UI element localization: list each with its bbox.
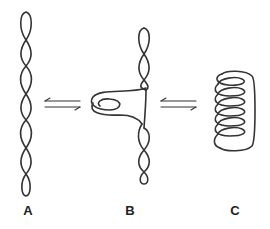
panel-label-a: A: [18, 203, 38, 218]
panel-label-b: B: [120, 203, 140, 218]
panel-label-c: C: [225, 203, 245, 218]
supercoil-diagram: A B C: [0, 0, 270, 229]
panel-b-intermediate: [92, 28, 150, 184]
panel-c-toroid: [214, 71, 255, 151]
diagram-canvas: [0, 0, 270, 229]
equilibrium-arrows-a-b: [45, 98, 80, 110]
panel-a-plectoneme: [21, 12, 32, 196]
equilibrium-arrows-b-c: [161, 98, 196, 110]
